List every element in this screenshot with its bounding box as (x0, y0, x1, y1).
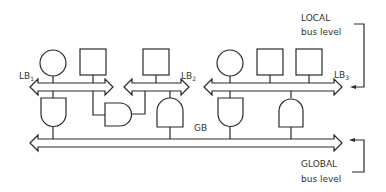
local-bracket-arrowhead (350, 85, 356, 89)
lb3-gb-gate-1 (218, 98, 243, 126)
lb1-lb2-bridge-gate (105, 103, 132, 126)
local-level-label-line1: LOCAL (301, 13, 330, 23)
lb1-circle-node (40, 50, 66, 76)
gb-label: GB (194, 123, 207, 133)
lb3-square-node-1 (257, 49, 283, 75)
global-level-bracket (352, 140, 364, 172)
lb3-label: LB3 (334, 70, 349, 81)
lb3-bus-arrow (204, 79, 342, 95)
global-bus-arrow (30, 135, 342, 151)
local-level-label-line2: bus level (301, 27, 341, 37)
global-level-label-line2: bus level (301, 174, 341, 184)
lb3-gb-gate-2 (279, 99, 303, 127)
global-bracket-arrowhead (349, 138, 355, 142)
lb3-circle-node (217, 50, 243, 76)
local-level-bracket (353, 24, 364, 87)
lb1-label: LB1 (19, 71, 34, 82)
global-level-label-line1: GLOBAL (301, 159, 337, 169)
lb2-gb-gate (157, 98, 183, 127)
lb1-square-node (80, 49, 106, 75)
lb2-square-node (143, 49, 169, 75)
lb3-square-node-2 (296, 49, 322, 75)
lb1-bus-arrow (30, 79, 113, 95)
lb2-label: LB2 (181, 71, 196, 82)
bus-diagram: LB1 LB2 LB3 GB LOCAL bus level GLOBAL bu… (0, 0, 386, 192)
lb1-gb-gate (41, 98, 66, 126)
